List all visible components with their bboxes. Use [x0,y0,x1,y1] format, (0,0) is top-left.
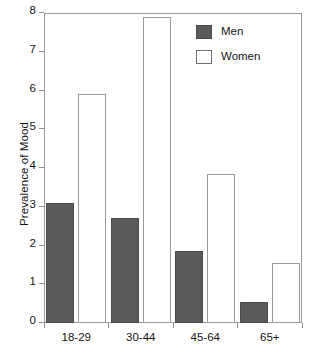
x-tick-mark [237,323,238,328]
y-tick-label: 8 [30,5,36,17]
x-tick-mark [108,323,109,328]
bar-men-18-29 [46,203,74,323]
x-tick-label: 65+ [230,332,310,344]
x-tick-mark [302,323,303,328]
bar-men-45-64 [175,251,203,323]
legend-label: Men [221,26,243,38]
y-tick-label: 4 [30,160,36,172]
chart-legend: MenWomen [196,22,260,72]
legend-label: Women [221,51,260,63]
legend-item-women: Women [196,47,260,67]
y-tick-label: 2 [30,238,36,250]
x-tick-mark [173,323,174,328]
legend-swatch-women [196,50,212,64]
bar-chart: Prevalence of Mood 012345678 18-2930-444… [0,0,313,357]
legend-item-men: Men [196,22,260,42]
y-tick-label: 5 [30,121,36,133]
x-tick-mark [44,323,45,328]
y-tick-label: 7 [30,44,36,56]
legend-swatch-men [196,25,212,39]
bar-women-18-29 [78,94,106,323]
bar-men-65+ [240,302,268,323]
bars-layer [44,13,302,323]
bar-women-30-44 [143,17,171,323]
y-tick-label: 3 [30,199,36,211]
y-tick-label: 1 [30,276,36,288]
y-tick-label: 0 [30,315,36,327]
bar-women-45-64 [207,174,235,323]
bar-men-30-44 [111,218,139,323]
bar-women-65+ [272,263,300,323]
y-axis-label: Prevalence of Mood [18,84,30,264]
y-tick-label: 6 [30,83,36,95]
